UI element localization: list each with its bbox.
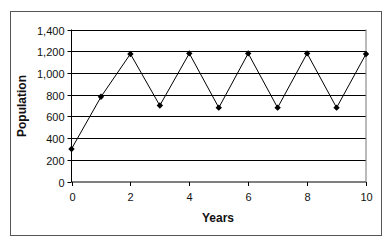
x-axis-ticks: 0246810 xyxy=(69,182,372,203)
y-tick-label: 1,200 xyxy=(37,46,65,58)
x-tick-label: 2 xyxy=(127,191,133,203)
x-tick-label: 6 xyxy=(245,191,251,203)
diamond-marker-icon xyxy=(333,104,339,110)
y-axis-ticks: 02004006008001,0001,2001,400 xyxy=(37,25,72,189)
series-line xyxy=(72,53,367,148)
diamond-marker-icon xyxy=(98,94,104,100)
diamond-marker-icon xyxy=(274,104,280,110)
diamond-marker-icon xyxy=(68,146,74,152)
y-tick-label: 800 xyxy=(46,90,64,102)
y-tick-label: 400 xyxy=(46,133,64,145)
x-axis-title: Years xyxy=(202,211,234,225)
y-tick-label: 200 xyxy=(46,155,64,167)
x-tick-label: 4 xyxy=(186,191,192,203)
y-tick-label: 1,400 xyxy=(37,25,65,37)
diamond-marker-icon xyxy=(157,102,163,108)
x-tick-label: 10 xyxy=(360,191,372,203)
y-axis-title: Population xyxy=(15,75,29,137)
y-tick-label: 0 xyxy=(58,177,64,189)
gridlines xyxy=(72,31,367,161)
diamond-marker-icon xyxy=(216,104,222,110)
y-tick-label: 600 xyxy=(46,111,64,123)
x-tick-label: 0 xyxy=(69,191,75,203)
x-tick-label: 8 xyxy=(304,191,310,203)
line-chart: 02004006008001,0001,2001,400 0246810 Yea… xyxy=(0,0,389,243)
data-series xyxy=(68,50,369,152)
y-tick-label: 1,000 xyxy=(37,68,65,80)
